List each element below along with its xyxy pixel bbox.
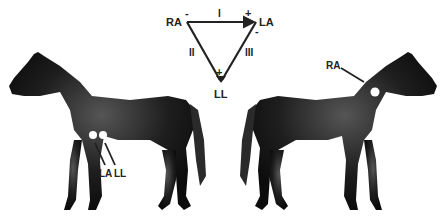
electrode-ra-icon — [371, 88, 380, 97]
right-horse — [240, 52, 437, 210]
ll-plus-sign: + — [216, 66, 222, 78]
electrode-ll-icon — [99, 131, 107, 139]
ecg-lead-placement-diagram: RA LA LL I II III - + - + LA LL RA — [0, 0, 446, 224]
ll-lead-wire — [105, 143, 115, 165]
electrode-la-icon — [89, 131, 97, 139]
vertex-ra-label: RA — [166, 16, 182, 28]
electrode-ra-label: RA — [326, 60, 340, 71]
ra-minus-sign: - — [185, 7, 189, 19]
vertex-la-label: LA — [259, 16, 274, 28]
electrode-ll-label: LL — [114, 168, 126, 179]
la-minus-sign: - — [255, 25, 259, 37]
vertex-ll-label: LL — [214, 88, 228, 100]
einthoven-triangle: RA LA LL I II III - + - + — [166, 7, 274, 100]
lead-1-label: I — [218, 8, 221, 19]
ra-lead-wire — [341, 68, 364, 82]
electrode-la-label: LA — [99, 168, 112, 179]
left-horse — [9, 52, 206, 210]
diagram-canvas: RA LA LL I II III - + - + LA LL RA — [0, 0, 446, 224]
lead-3-label: III — [245, 47, 254, 58]
lead-2-label: II — [189, 47, 195, 58]
la-plus-sign: + — [245, 7, 251, 19]
